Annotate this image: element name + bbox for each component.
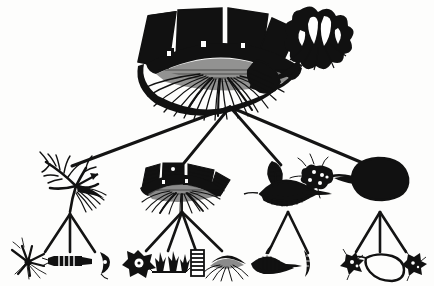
leaf-node-2-3-illustration bbox=[191, 250, 204, 276]
leaf-node-1-2-illustration bbox=[42, 256, 92, 266]
figure-canvas bbox=[0, 0, 434, 286]
tree-diagram bbox=[0, 0, 434, 286]
